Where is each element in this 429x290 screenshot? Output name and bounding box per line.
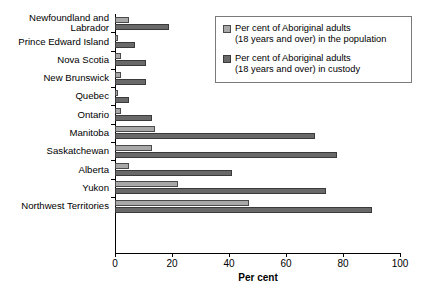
bar-population [115, 90, 118, 96]
category-label: Nova Scotia [0, 51, 112, 69]
chart-legend: Per cent of Aboriginal adults (18 years … [215, 16, 412, 83]
bar-pair [115, 124, 400, 142]
bar-group [115, 160, 400, 178]
bar-custody [115, 188, 326, 194]
bar-population [115, 53, 121, 59]
bar-custody [115, 60, 146, 66]
bar-group [115, 124, 400, 142]
bar-pair [115, 197, 400, 215]
bar-group [115, 179, 400, 197]
bar-population [115, 72, 121, 78]
bar-custody [115, 79, 146, 85]
bar-population [115, 126, 155, 132]
category-label: Newfoundland and Labrador [0, 14, 112, 32]
bar-population [115, 200, 249, 206]
bar-group [115, 142, 400, 160]
x-axis-tick-label: 100 [392, 258, 409, 269]
x-axis-tick-label: 0 [112, 258, 118, 269]
category-label: Northwest Territories [0, 197, 112, 215]
x-axis-tick [286, 253, 287, 257]
category-label: New Brunswick [0, 69, 112, 87]
bar-custody [115, 170, 232, 176]
bar-population [115, 17, 129, 23]
dark-gray-swatch-icon [223, 55, 231, 63]
x-axis-tick-label: 80 [337, 258, 348, 269]
bar-custody [115, 24, 169, 30]
bar-custody [115, 42, 135, 48]
legend-item-custody: Per cent of Aboriginal adults (18 years … [223, 53, 404, 76]
x-axis-tick [400, 253, 401, 257]
bar-population [115, 145, 152, 151]
category-label: Alberta [0, 160, 112, 178]
bar-custody [115, 133, 315, 139]
category-label: Ontario [0, 105, 112, 123]
legend-item-population: Per cent of Aboriginal adults (18 years … [223, 23, 404, 46]
bar-pair [115, 179, 400, 197]
x-axis-tick-label: 20 [166, 258, 177, 269]
x-axis-tick-label: 60 [280, 258, 291, 269]
bar-population [115, 181, 178, 187]
bar-custody [115, 115, 152, 121]
category-label: Saskatchewan [0, 142, 112, 160]
x-axis-tick-label: 40 [223, 258, 234, 269]
x-axis-title: Per cent [115, 272, 401, 283]
bar-chart: Newfoundland and LabradorPrince Edward I… [0, 0, 429, 290]
bar-group [115, 197, 400, 215]
bar-population [115, 108, 121, 114]
x-axis-tick [343, 253, 344, 257]
x-axis-line [115, 253, 401, 254]
bar-population [115, 163, 129, 169]
category-label: Quebec [0, 87, 112, 105]
bar-pair [115, 160, 400, 178]
category-label: Prince Edward Island [0, 32, 112, 50]
bar-pair [115, 105, 400, 123]
bar-custody [115, 207, 372, 213]
category-axis-labels: Newfoundland and LabradorPrince Edward I… [0, 14, 112, 252]
bar-group [115, 105, 400, 123]
bar-group [115, 87, 400, 105]
x-axis-tick [229, 253, 230, 257]
category-label: Yukon [0, 179, 112, 197]
legend-label-custody: Per cent of Aboriginal adults (18 years … [235, 53, 360, 76]
bar-custody [115, 97, 129, 103]
bar-pair [115, 87, 400, 105]
x-axis-tick [115, 253, 116, 257]
category-label: Manitoba [0, 124, 112, 142]
legend-label-population: Per cent of Aboriginal adults (18 years … [235, 23, 386, 46]
light-gray-swatch-icon [223, 25, 231, 33]
x-axis-tick [172, 253, 173, 257]
bar-pair [115, 142, 400, 160]
bar-population [115, 35, 118, 41]
bar-custody [115, 152, 337, 158]
